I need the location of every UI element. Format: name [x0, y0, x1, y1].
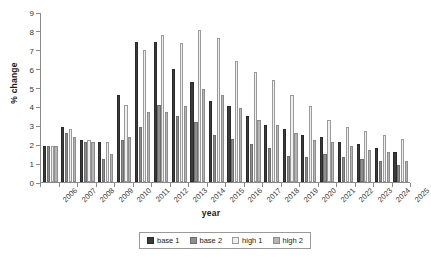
bar-base-1-2010 [117, 95, 120, 182]
bar-base-2-2025 [397, 165, 400, 182]
bar-base-2-2009 [102, 159, 105, 182]
y-axis-tick-label: 6 [30, 65, 34, 74]
bar-high-1-2022 [346, 127, 349, 182]
plot-area: 0123456789 [40, 13, 410, 183]
bar-base-1-2019 [283, 129, 286, 182]
bar-high-2-2009 [110, 154, 113, 182]
x-axis-label-2008: 2008 [98, 186, 116, 204]
y-axis-tick-label: 2 [30, 141, 34, 150]
legend-item-base-1[interactable]: base 1 [147, 236, 180, 245]
bar-base-2-2017 [250, 144, 253, 182]
bar-high-1-2021 [327, 120, 330, 182]
x-axis-label-2018: 2018 [283, 186, 301, 204]
bar-group [207, 13, 225, 182]
bar-high-1-2023 [364, 131, 367, 182]
bar-base-1-2016 [227, 106, 230, 182]
bar-base-2-2012 [157, 105, 160, 182]
bar-high-1-2011 [143, 50, 146, 182]
y-axis-title: % change [9, 43, 19, 123]
bar-high-1-2007 [69, 129, 72, 182]
bar-base-1-2022 [338, 142, 341, 182]
bar-high-1-2014 [198, 30, 201, 182]
bar-high-1-2016 [235, 61, 238, 182]
x-axis-label-2019: 2019 [302, 186, 320, 204]
bar-group [373, 13, 391, 182]
legend-label: high 1 [242, 236, 262, 245]
chart-legend: base 1base 2high 1high 2 [139, 232, 311, 249]
bar-base-1-2015 [209, 101, 212, 182]
x-axis-label-2021: 2021 [339, 186, 357, 204]
bar-high-1-2019 [290, 95, 293, 182]
bar-high-2-2007 [73, 137, 76, 182]
x-axis-label-2023: 2023 [376, 186, 394, 204]
bar-base-1-2024 [375, 148, 378, 182]
bar-base-2-2020 [305, 157, 308, 182]
bar-groups [41, 13, 410, 182]
x-axis-title: year [0, 208, 422, 218]
x-axis-label-2010: 2010 [135, 186, 153, 204]
legend-swatch-icon [273, 237, 280, 244]
bar-high-2-2014 [202, 89, 205, 182]
bar-high-1-2010 [124, 105, 127, 182]
x-axis-label-2014: 2014 [209, 186, 227, 204]
legend-swatch-icon [147, 237, 154, 244]
bar-base-2-2021 [323, 154, 326, 182]
bar-group [189, 13, 207, 182]
bar-group [336, 13, 354, 182]
bar-base-1-2008 [80, 140, 83, 182]
bar-group [133, 13, 151, 182]
x-axis-label-2022: 2022 [357, 186, 375, 204]
bar-high-2-2011 [147, 112, 150, 182]
legend-item-high-1[interactable]: high 1 [232, 236, 262, 245]
bar-base-2-2006 [47, 146, 50, 182]
bar-base-2-2016 [231, 139, 234, 182]
bar-base-1-2025 [393, 152, 396, 182]
x-axis-label-2025: 2025 [413, 186, 431, 204]
bar-group [281, 13, 299, 182]
bar-high-1-2020 [309, 106, 312, 182]
bar-high-2-2024 [387, 152, 390, 182]
bar-group [355, 13, 373, 182]
bar-base-1-2012 [154, 42, 157, 182]
bar-base-1-2021 [320, 137, 323, 182]
legend-item-base-2[interactable]: base 2 [190, 236, 223, 245]
bar-base-2-2019 [287, 156, 290, 182]
bar-high-2-2010 [128, 137, 131, 182]
legend-item-high-2[interactable]: high 2 [273, 236, 303, 245]
bar-high-1-2015 [217, 38, 220, 183]
bar-high-1-2018 [272, 80, 275, 182]
bar-high-1-2006 [51, 146, 54, 182]
bar-group [318, 13, 336, 182]
bar-base-2-2015 [213, 135, 216, 182]
bar-group [115, 13, 133, 182]
bar-high-2-2021 [331, 142, 334, 182]
bar-group [244, 13, 262, 182]
bar-high-2-2020 [313, 140, 316, 182]
y-axis-tick-label: 7 [30, 46, 34, 55]
bar-base-1-2017 [246, 116, 249, 182]
legend-label: high 2 [283, 236, 303, 245]
x-axis-label-2024: 2024 [394, 186, 412, 204]
bar-high-2-2025 [405, 161, 408, 182]
x-axis-tick [410, 183, 411, 187]
bar-base-1-2018 [264, 125, 267, 182]
y-axis-tick-label: 3 [30, 122, 34, 131]
bar-group [152, 13, 170, 182]
x-axis-label-2007: 2007 [80, 186, 98, 204]
bar-high-2-2012 [165, 112, 168, 182]
bar-group [170, 13, 188, 182]
bar-base-1-2023 [357, 144, 360, 182]
bar-base-2-2018 [268, 148, 271, 182]
y-axis-tick-label: 0 [30, 179, 34, 188]
y-axis-tick-label: 9 [30, 9, 34, 18]
bar-base-2-2022 [342, 157, 345, 182]
legend-swatch-icon [190, 237, 197, 244]
bar-base-2-2013 [176, 116, 179, 182]
bar-base-2-2024 [379, 161, 382, 182]
x-axis-label-2013: 2013 [191, 186, 209, 204]
bar-base-2-2010 [121, 140, 124, 182]
legend-label: base 2 [200, 236, 223, 245]
bar-group [299, 13, 317, 182]
bar-high-2-2017 [257, 120, 260, 182]
